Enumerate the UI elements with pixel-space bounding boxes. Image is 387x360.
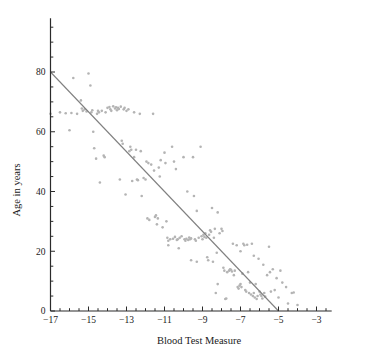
- scatter-point: [279, 269, 282, 272]
- scatter-point: [93, 147, 96, 150]
- scatter-point: [120, 139, 123, 142]
- scatter-point: [270, 290, 273, 293]
- scatter-point: [119, 178, 122, 181]
- plot-background: [0, 0, 387, 360]
- scatter-point: [163, 151, 166, 154]
- x-axis-title: Blood Test Measure: [157, 335, 242, 346]
- y-tick-label: 20: [36, 247, 46, 257]
- scatter-point: [251, 242, 254, 245]
- scatter-point: [104, 111, 107, 114]
- scatter-point: [234, 269, 237, 272]
- scatter-point: [112, 105, 115, 108]
- y-tick-label: 40: [36, 187, 46, 197]
- scatter-point: [195, 239, 198, 242]
- scatter-point: [175, 168, 178, 171]
- scatter-point: [182, 156, 185, 159]
- scatter-point: [201, 238, 204, 241]
- scatter-point: [92, 130, 95, 133]
- scatter-point: [158, 166, 161, 169]
- scatter-point: [130, 148, 133, 151]
- scatter-point: [222, 266, 225, 269]
- scatter-point: [218, 232, 221, 235]
- scatter-point: [257, 257, 260, 260]
- scatter-point: [144, 178, 147, 181]
- scatter-point: [150, 163, 153, 166]
- scatter-point: [157, 217, 160, 220]
- scatter-point: [80, 99, 83, 102]
- scatter-point: [177, 247, 180, 250]
- scatter-point: [246, 243, 249, 246]
- scatter-point: [255, 298, 258, 301]
- x-tick-label: −9: [197, 315, 207, 325]
- scatter-point: [120, 105, 123, 108]
- scatter-point: [277, 296, 280, 299]
- x-tick-label: −15: [81, 315, 96, 325]
- scatter-point: [196, 260, 199, 263]
- y-tick-label: 60: [36, 127, 46, 137]
- scatter-point: [118, 108, 121, 111]
- scatter-point: [121, 142, 124, 145]
- scatter-point: [72, 77, 75, 80]
- x-tick-label: −13: [119, 315, 134, 325]
- scatter-point: [137, 179, 140, 182]
- scatter-point: [235, 244, 238, 247]
- scatter-point: [245, 290, 248, 293]
- scatter-point: [135, 148, 138, 151]
- scatter-point: [296, 304, 299, 307]
- scatter-point: [98, 111, 101, 114]
- x-tick-label: −5: [273, 315, 283, 325]
- scatter-point: [129, 145, 132, 148]
- scatter-point: [285, 286, 288, 289]
- scatter-point: [173, 160, 176, 163]
- y-axis-title: Age in years: [11, 163, 22, 216]
- scatter-point: [95, 157, 98, 160]
- y-tick-label: 80: [36, 67, 46, 77]
- scatter-point: [199, 145, 202, 148]
- x-tick-label: −17: [43, 315, 58, 325]
- scatter-point: [167, 244, 170, 247]
- scatter-point: [147, 162, 150, 165]
- scatter-point: [292, 291, 295, 294]
- scatter-point: [172, 237, 175, 240]
- scatter-point: [263, 292, 266, 295]
- scatter-point: [273, 289, 276, 292]
- scatter-point: [180, 235, 183, 238]
- scatter-plot-figure: −17−15−13−11−9−7−5−3020406080 Blood Test…: [0, 0, 387, 360]
- scatter-point: [103, 156, 106, 159]
- scatter-point: [207, 259, 210, 262]
- scatter-point: [110, 110, 113, 113]
- scatter-point: [211, 207, 214, 210]
- scatter-point: [164, 162, 167, 165]
- scatter-point: [221, 230, 224, 233]
- scatter-point: [237, 287, 240, 290]
- scatter-point: [256, 295, 259, 298]
- scatter-point: [64, 112, 67, 115]
- scatter-point: [197, 237, 200, 240]
- scatter-point: [213, 237, 216, 240]
- scatter-point: [139, 150, 142, 153]
- scatter-point: [131, 180, 134, 183]
- scatter-point: [212, 260, 215, 263]
- scatter-point: [89, 84, 92, 87]
- scatter-point: [266, 274, 269, 277]
- scatter-point: [272, 268, 275, 271]
- scatter-point: [239, 283, 242, 286]
- scatter-point: [70, 112, 73, 115]
- scatter-point: [91, 109, 94, 112]
- scatter-point: [156, 223, 159, 226]
- scatter-point: [269, 271, 272, 274]
- x-tick-label: −11: [157, 315, 172, 325]
- scatter-point: [193, 195, 196, 198]
- scatter-point: [262, 263, 265, 266]
- scatter-point: [215, 251, 218, 254]
- scatter-point: [192, 156, 195, 159]
- scatter-point: [275, 277, 278, 280]
- scatter-point: [225, 297, 228, 300]
- scatter-point: [186, 190, 189, 193]
- scatter-point: [214, 228, 217, 231]
- scatter-point: [101, 110, 104, 113]
- scatter-point: [169, 238, 172, 241]
- y-tick-label: 0: [41, 306, 46, 316]
- scatter-point: [190, 259, 193, 262]
- scatter-point: [253, 254, 256, 257]
